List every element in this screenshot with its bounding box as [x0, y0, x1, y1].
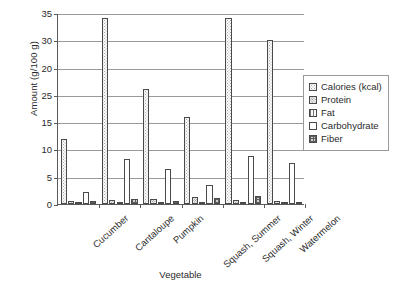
- bar: [206, 185, 212, 204]
- bar: [192, 197, 198, 204]
- bar: [281, 202, 287, 204]
- bar-group: [102, 14, 138, 204]
- bar: [158, 202, 164, 204]
- chart-legend: Calories (kcal)ProteinFatCarbohydrateFib…: [303, 75, 389, 151]
- legend-label: Calories (kcal): [321, 82, 382, 92]
- y-tick-mark: [54, 205, 58, 206]
- x-tick-mark: [223, 204, 224, 208]
- bar: [233, 200, 239, 204]
- x-tick-mark: [182, 204, 183, 208]
- bar: [117, 202, 123, 204]
- bar: [109, 200, 115, 204]
- bar-group: [143, 14, 179, 204]
- legend-swatch: [309, 109, 317, 117]
- plot-area: 35302025151050: [57, 14, 304, 205]
- x-category-label: Pumpkin: [171, 213, 205, 245]
- bar: [199, 202, 205, 204]
- bar: [90, 201, 96, 204]
- y-tick-label: 20: [41, 64, 52, 74]
- bar: [225, 18, 231, 204]
- y-tick-label: 10: [41, 146, 52, 156]
- bar: [102, 18, 108, 204]
- legend-item: Calories (kcal): [309, 80, 382, 93]
- y-tick-label: 15: [41, 118, 52, 128]
- bar: [267, 40, 273, 204]
- y-tick-mark: [54, 41, 58, 42]
- bar: [131, 199, 137, 204]
- x-category-label: Cucumber: [91, 213, 130, 249]
- bar-group: [184, 14, 220, 204]
- x-tick-mark: [264, 204, 265, 208]
- x-tick-mark: [140, 204, 141, 208]
- bar: [143, 89, 149, 204]
- bar: [150, 199, 156, 204]
- legend-item: Fat: [309, 106, 382, 119]
- bar: [83, 192, 89, 204]
- bar: [184, 117, 190, 204]
- y-tick-mark: [54, 14, 58, 15]
- bar-group: [267, 14, 303, 204]
- bar: [214, 198, 220, 204]
- bar: [61, 139, 67, 204]
- legend-label: Protein: [321, 95, 351, 105]
- x-tick-mark: [305, 204, 306, 208]
- bar: [75, 202, 81, 204]
- bar: [296, 202, 302, 204]
- bar: [124, 159, 130, 204]
- y-tick-label: 35: [41, 9, 52, 19]
- legend-swatch: [309, 122, 317, 130]
- bar: [289, 163, 295, 204]
- y-tick-mark: [54, 178, 58, 179]
- x-category-label: Cantaloupe: [133, 213, 175, 253]
- y-tick-mark: [54, 96, 58, 97]
- x-tick-mark: [99, 204, 100, 208]
- y-tick-label: 30: [41, 37, 52, 47]
- x-axis-title: Vegetable: [57, 269, 304, 280]
- bar: [240, 202, 246, 204]
- legend-label: Fat: [321, 108, 335, 118]
- legend-item: Carbohydrate: [309, 119, 382, 132]
- y-axis-title: Amount (g/100 g): [28, 0, 39, 159]
- bar: [248, 156, 254, 204]
- bar: [173, 201, 179, 204]
- x-category-label: Squash, Summer: [222, 213, 283, 269]
- y-tick-mark: [54, 150, 58, 151]
- bar-group: [225, 14, 261, 204]
- legend-label: Carbohydrate: [321, 121, 379, 131]
- y-tick-mark: [54, 123, 58, 124]
- y-tick-label: 25: [41, 91, 52, 101]
- bar: [165, 169, 171, 204]
- legend-item: Fiber: [309, 132, 382, 145]
- y-tick-label: 5: [47, 173, 52, 183]
- legend-label: Fiber: [321, 134, 343, 144]
- bar: [255, 196, 261, 204]
- legend-swatch: [309, 96, 317, 104]
- bar: [274, 201, 280, 204]
- legend-swatch: [309, 83, 317, 91]
- legend-item: Protein: [309, 93, 382, 106]
- legend-swatch: [309, 135, 317, 143]
- y-tick-mark: [54, 69, 58, 70]
- bar-group: [61, 14, 97, 204]
- chart-container: Amount (g/100 g) 35302025151050 Cucumber…: [0, 0, 413, 292]
- y-tick-label: 0: [47, 200, 52, 210]
- bar: [68, 201, 74, 204]
